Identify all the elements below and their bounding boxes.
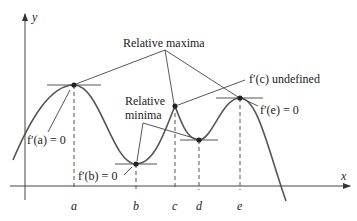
- diagram-canvas: y x a b c d e Relative maxima Relative m…: [0, 0, 357, 221]
- x-axis-label: x: [340, 169, 347, 183]
- fb-label: f′(b) = 0: [78, 169, 117, 183]
- point-a: [71, 82, 76, 87]
- y-axis-label: y: [31, 10, 38, 24]
- point-c: [172, 103, 177, 108]
- point-b: [133, 161, 138, 166]
- tick-a: a: [71, 199, 77, 213]
- tick-e: e: [237, 199, 243, 213]
- relative-minima-label-1: Relative: [125, 94, 165, 108]
- tick-b: b: [133, 199, 139, 213]
- fc-label: f′(c) undefined: [249, 72, 320, 86]
- point-d: [196, 137, 201, 142]
- relative-minima-label-2: minima: [125, 108, 162, 122]
- fe-label: f′(e) = 0: [260, 103, 299, 117]
- fa-label: f′(a) = 0: [27, 133, 66, 147]
- tick-c: c: [172, 199, 178, 213]
- point-e: [237, 95, 242, 100]
- relative-maxima-label: Relative maxima: [123, 36, 205, 50]
- tick-d: d: [196, 199, 203, 213]
